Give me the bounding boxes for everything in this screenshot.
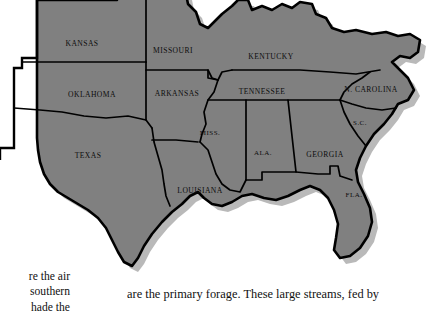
state-label-oklahoma: OKLAHOMA (68, 90, 116, 99)
left-text-column: re the air southern hade the (0, 269, 72, 315)
state-label-kansas: KANSAS (65, 39, 98, 48)
state-label-missouri: MISSOURI (153, 46, 193, 55)
state-label-texas: TEXAS (75, 151, 102, 160)
left-text-line-2: southern (0, 284, 72, 299)
state-label-florida: FLA. (346, 191, 363, 199)
state-label-north-carolina: N. CAROLINA (344, 85, 398, 94)
page-canvas: KANSAS MISSOURI KENTUCKY OKLAHOMA ARKANS… (0, 0, 429, 317)
map-western-boundary (0, 0, 37, 160)
state-label-louisiana: LOUISIANA (177, 186, 222, 195)
right-text-line-1: are the primary forage. These large stre… (127, 287, 429, 303)
state-label-georgia: GEORGIA (306, 150, 343, 159)
state-label-arkansas: ARKANSAS (155, 89, 200, 98)
state-label-south-carolina: S.C. (353, 119, 367, 127)
right-text-column: are the primary forage. These large stre… (127, 287, 429, 317)
state-label-kentucky: KENTUCKY (248, 52, 293, 61)
left-text-line-3: hade the (0, 300, 72, 315)
state-label-mississippi: MISS. (200, 129, 220, 137)
southern-us-map-figure: KANSAS MISSOURI KENTUCKY OKLAHOMA ARKANS… (0, 0, 429, 285)
left-text-line-1: re the air (0, 269, 72, 284)
state-label-alabama: ALA. (254, 149, 272, 157)
state-label-tennessee: TENNESSEE (239, 87, 286, 96)
map-graphic: KANSAS MISSOURI KENTUCKY OKLAHOMA ARKANS… (0, 0, 429, 285)
